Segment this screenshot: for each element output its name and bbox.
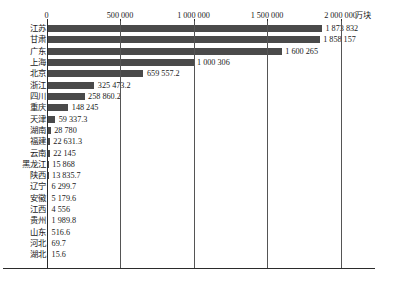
category-label: 江苏 bbox=[2, 23, 46, 34]
category-label: 湖北 bbox=[2, 249, 46, 260]
category-label: 广东 bbox=[2, 46, 46, 57]
bar-value-label: 1 000 306 bbox=[197, 57, 230, 68]
bar-value-label: 4 556 bbox=[52, 204, 70, 215]
category-label: 黑龙江 bbox=[2, 159, 46, 170]
bar-value-label: 15 868 bbox=[52, 159, 75, 170]
category-label: 辽宁 bbox=[2, 181, 46, 192]
bar-value-label: 6 299.7 bbox=[52, 181, 77, 192]
category-label: 江西 bbox=[2, 204, 46, 215]
category-label: 湖南 bbox=[2, 125, 46, 136]
bar bbox=[47, 104, 69, 111]
category-label: 山东 bbox=[2, 227, 46, 238]
category-label: 陕西 bbox=[2, 170, 46, 181]
category-label: 河北 bbox=[2, 238, 46, 249]
bar bbox=[47, 36, 320, 43]
gridline-2000000 bbox=[341, 21, 342, 268]
bar-value-label: 516.6 bbox=[52, 227, 70, 238]
category-label: 甘肃 bbox=[2, 34, 46, 45]
category-label: 云南 bbox=[2, 148, 46, 159]
bottom-border bbox=[3, 268, 375, 269]
category-label: 天津 bbox=[2, 114, 46, 125]
category-label: 上海 bbox=[2, 57, 46, 68]
category-label: 重庆 bbox=[2, 102, 46, 113]
bar-chart: 0500 0001 000 0001 500 0002 000 000万块 江苏… bbox=[0, 0, 400, 286]
bar-value-label: 13 835.7 bbox=[52, 170, 81, 181]
bar-value-label: 69.7 bbox=[52, 238, 66, 249]
bar-value-label: 659 557.2 bbox=[147, 68, 180, 79]
bar-value-label: 28 780 bbox=[54, 125, 77, 136]
bar-value-label: 1 600 265 bbox=[285, 46, 318, 57]
bar bbox=[47, 48, 282, 55]
category-label: 贵州 bbox=[2, 215, 46, 226]
bar-value-label: 15.6 bbox=[52, 249, 66, 260]
bar bbox=[47, 82, 95, 89]
bar bbox=[47, 25, 322, 32]
bar bbox=[47, 70, 144, 77]
category-label: 四川 bbox=[2, 91, 46, 102]
bar-value-label: 5 179.6 bbox=[52, 193, 77, 204]
gridline-1500000 bbox=[267, 21, 268, 268]
bar-value-label: 258 860.2 bbox=[88, 91, 121, 102]
bar bbox=[47, 93, 85, 100]
y-axis-line bbox=[47, 21, 48, 268]
gridline-1000000 bbox=[194, 21, 195, 268]
bar-value-label: 22 631.3 bbox=[53, 136, 82, 147]
category-label: 福建 bbox=[2, 136, 46, 147]
bar-value-label: 1 989.8 bbox=[52, 215, 77, 226]
gridline-500000 bbox=[120, 21, 121, 268]
bar-value-label: 325 473.2 bbox=[98, 80, 131, 91]
bar-value-label: 59 337.3 bbox=[59, 114, 88, 125]
bar-value-label: 1 873 832 bbox=[325, 23, 358, 34]
bar bbox=[47, 116, 56, 123]
category-label: 安徽 bbox=[2, 193, 46, 204]
category-label: 北京 bbox=[2, 68, 46, 79]
bar-value-label: 22 145 bbox=[53, 148, 76, 159]
category-label: 浙江 bbox=[2, 80, 46, 91]
bar-value-label: 148 245 bbox=[72, 102, 99, 113]
